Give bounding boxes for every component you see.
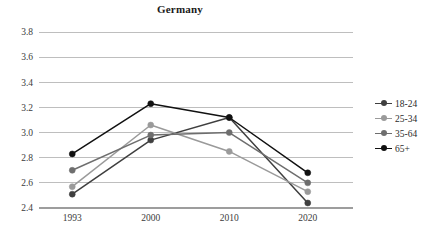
y-axis-tick-label: 2.8 xyxy=(21,153,33,163)
plot-area: 2.42.62.83.03.23.43.63.8 199320002010202… xyxy=(0,22,360,222)
legend-label: 25-34 xyxy=(395,114,417,124)
chart-title: Germany xyxy=(0,3,360,15)
chart-legend: 18-2425-3435-6465+ xyxy=(375,96,435,156)
data-point xyxy=(148,101,154,107)
legend-marker-icon xyxy=(375,143,392,154)
y-axis-tick-label: 3.4 xyxy=(21,78,33,88)
legend-item-65plus[interactable]: 65+ xyxy=(375,141,435,156)
line-chart-svg: 2.42.62.83.03.23.43.63.8 199320002010202… xyxy=(0,22,360,222)
y-axis-tick-label: 3.2 xyxy=(21,103,33,113)
figure-caption xyxy=(3,231,203,243)
data-point xyxy=(226,114,232,120)
data-point xyxy=(69,191,75,197)
y-axis-tick-label: 2.6 xyxy=(21,178,33,188)
legend-dot xyxy=(381,100,387,106)
data-point xyxy=(305,189,311,195)
data-point xyxy=(226,130,232,136)
x-axis-tick-labels: 1993200020102020 xyxy=(63,213,318,223)
x-axis-tick-label: 2010 xyxy=(220,213,239,223)
y-axis-tick-label: 3.6 xyxy=(21,52,33,62)
legend-item-25-34[interactable]: 25-34 xyxy=(375,111,435,126)
data-point xyxy=(305,170,311,176)
legend-item-35-64[interactable]: 35-64 xyxy=(375,126,435,141)
legend-item-18-24[interactable]: 18-24 xyxy=(375,96,435,111)
data-point xyxy=(69,184,75,190)
x-axis-tick-label: 1993 xyxy=(63,213,82,223)
data-point xyxy=(305,180,311,186)
chart-figure: Germany 2.42.62.83.03.23.43.63.8 1993200… xyxy=(0,0,435,244)
legend-dot xyxy=(381,130,387,136)
series-line-25-34 xyxy=(72,125,308,192)
y-axis-tick-label: 2.4 xyxy=(21,203,33,213)
x-axis-tick-label: 2000 xyxy=(141,213,160,223)
series-lines-group xyxy=(72,104,308,203)
legend-dot xyxy=(381,145,387,151)
data-point xyxy=(148,132,154,138)
legend-dot xyxy=(381,115,387,121)
y-axis-tick-label: 3.0 xyxy=(21,128,33,138)
legend-label: 65+ xyxy=(395,144,410,154)
data-point xyxy=(226,148,232,154)
x-axis-tick-label: 2020 xyxy=(298,213,317,223)
data-point xyxy=(69,167,75,173)
legend-label: 18-24 xyxy=(395,99,417,109)
data-point xyxy=(69,151,75,157)
legend-label: 35-64 xyxy=(395,129,417,139)
legend-marker-icon xyxy=(375,98,392,109)
series-points-group xyxy=(69,101,311,206)
data-point xyxy=(305,200,311,206)
y-axis-tick-labels: 2.42.62.83.03.23.43.63.8 xyxy=(21,27,33,213)
data-point xyxy=(148,122,154,128)
legend-marker-icon xyxy=(375,128,392,139)
legend-marker-icon xyxy=(375,113,392,124)
y-axis-tick-label: 3.8 xyxy=(21,27,33,37)
